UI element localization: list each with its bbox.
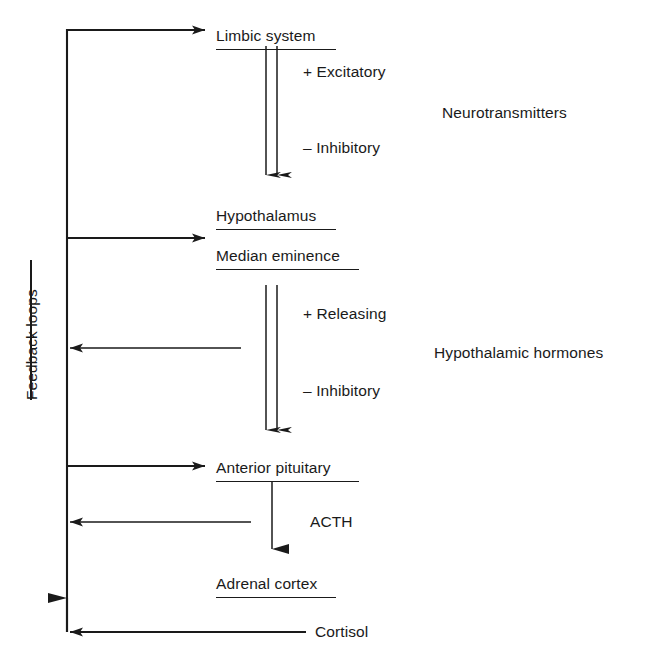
feedback-loops-label: Feedback loops <box>24 289 40 400</box>
edge-label-acth: ACTH <box>310 514 353 530</box>
node-limbic-system-text: Limbic system <box>216 27 315 44</box>
edge-label-inhibitory-lower: – Inhibitory <box>303 383 380 399</box>
side-label-neurotransmitters: Neurotransmitters <box>442 105 567 121</box>
feedback-loops-rule <box>30 260 32 400</box>
arrow-median-to-pituitary <box>266 285 277 430</box>
feedback-spine <box>67 30 205 632</box>
arrow-limbic-to-hypothalamus <box>266 46 277 175</box>
edge-label-inhibitory-upper: – Inhibitory <box>303 140 380 156</box>
node-hypothalamus-text: Hypothalamus <box>216 207 316 224</box>
node-hypothalamus: Hypothalamus <box>216 208 336 230</box>
node-anterior-pituitary-text: Anterior pituitary <box>216 459 331 476</box>
side-label-hypothalamic-hormones: Hypothalamic hormones <box>434 345 603 361</box>
edge-label-releasing: + Releasing <box>303 306 386 322</box>
edge-label-cortisol: Cortisol <box>315 624 368 640</box>
diagram-connectors <box>0 0 645 662</box>
node-median-eminence-text: Median eminence <box>216 247 340 264</box>
diagram-canvas: Feedback loops Limbic system Hypothalamu… <box>0 0 645 662</box>
node-adrenal-cortex: Adrenal cortex <box>216 576 336 598</box>
node-median-eminence: Median eminence <box>216 248 359 270</box>
edge-label-excitatory: + Excitatory <box>303 64 386 80</box>
node-anterior-pituitary: Anterior pituitary <box>216 460 359 482</box>
node-limbic-system: Limbic system <box>216 28 336 50</box>
node-adrenal-cortex-text: Adrenal cortex <box>216 575 317 592</box>
